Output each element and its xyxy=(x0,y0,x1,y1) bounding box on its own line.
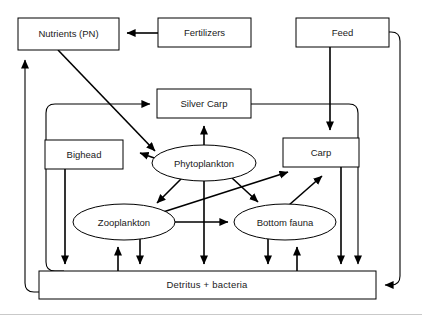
edge-phytoplankton-to-zooplankton xyxy=(157,178,182,203)
node-zooplankton[interactable]: Zooplankton xyxy=(73,204,175,240)
node-label-zooplankton: Zooplankton xyxy=(98,217,150,228)
edge-feed-to-detritus xyxy=(385,32,400,285)
edge-silvercarp-to-detritus xyxy=(251,104,358,264)
node-label-carp: Carp xyxy=(311,147,332,158)
node-label-bighead: Bighead xyxy=(67,149,102,160)
node-label-fertilizers: Fertilizers xyxy=(184,27,225,38)
node-nutrients[interactable]: Nutrients (PN) xyxy=(18,18,119,50)
edge-nutrients-to-phytoplankton xyxy=(58,50,155,151)
node-bottom-fauna[interactable]: Bottom fauna xyxy=(234,204,336,240)
node-label-phytoplankton: Phytoplankton xyxy=(174,158,234,169)
node-silver-carp[interactable]: Silver Carp xyxy=(157,89,251,118)
edge-phytoplankton-to-bottomfauna xyxy=(232,178,258,202)
edge-bottomfauna-to-carp xyxy=(289,176,322,205)
node-carp[interactable]: Carp xyxy=(283,138,359,167)
node-label-silver-carp: Silver Carp xyxy=(181,98,228,109)
node-label-detritus: Detritus + bacteria xyxy=(166,279,248,290)
node-fertilizers[interactable]: Fertilizers xyxy=(158,18,251,47)
node-phytoplankton[interactable]: Phytoplankton xyxy=(152,145,256,181)
flow-diagram-svg: Nutrients (PN) Fertilizers Feed Silver C… xyxy=(0,0,422,319)
node-label-feed: Feed xyxy=(332,27,354,38)
node-label-bottom-fauna: Bottom fauna xyxy=(257,217,314,228)
node-detritus[interactable]: Detritus + bacteria xyxy=(39,271,376,299)
node-feed[interactable]: Feed xyxy=(296,18,389,47)
node-label-nutrients: Nutrients (PN) xyxy=(38,28,98,39)
edge-detritus-to-nutrients xyxy=(25,60,48,292)
node-bighead[interactable]: Bighead xyxy=(45,140,123,169)
diagram-canvas: Nutrients (PN) Fertilizers Feed Silver C… xyxy=(0,0,422,319)
